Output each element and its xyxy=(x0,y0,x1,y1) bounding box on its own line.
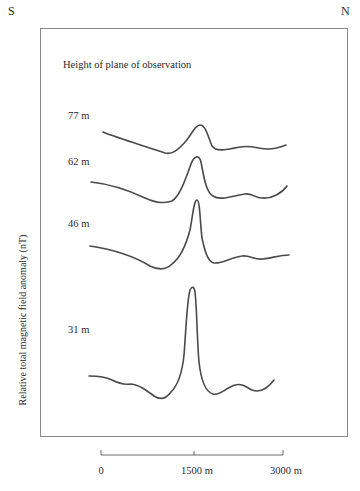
curve-46m xyxy=(90,200,289,269)
curve-62m xyxy=(91,157,287,203)
profile-curves xyxy=(0,0,360,491)
x-tick-3000: 3000 m xyxy=(270,465,302,476)
x-scale-bar xyxy=(101,450,283,455)
curve-31m xyxy=(89,287,274,398)
x-tick-1500: 1500 m xyxy=(181,465,213,476)
curve-77m xyxy=(103,125,286,153)
x-tick-0: 0 xyxy=(98,465,103,476)
